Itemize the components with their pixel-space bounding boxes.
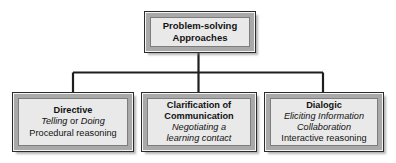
directive-conjunction-or: or xyxy=(67,116,80,126)
directive-term-telling: Telling xyxy=(41,116,67,126)
dialogic-node-line-4: Interactive reasoning xyxy=(265,133,383,144)
root-node-text: Problem-solving Approaches xyxy=(145,20,255,43)
directive-node: Directive Telling or Doing Procedural re… xyxy=(12,92,134,152)
clarification-node-line-1: Clarification of xyxy=(142,100,256,111)
directive-node-line-2: Telling or Doing xyxy=(13,116,133,127)
dialogic-node-line-1: Dialogic xyxy=(265,100,383,111)
root-node: Problem-solving Approaches xyxy=(144,11,256,53)
directive-node-line-3: Procedural reasoning xyxy=(13,128,133,139)
clarification-node: Clarification of Communication Negotiati… xyxy=(141,92,257,152)
directive-node-line-1: Directive xyxy=(13,105,133,116)
clarification-node-line-2: Communication xyxy=(142,111,256,122)
problem-solving-approaches-diagram: Problem-solving Approaches Directive Tel… xyxy=(0,0,396,163)
dialogic-node-text: Dialogic Eliciting Information Collabora… xyxy=(265,100,383,145)
clarification-node-line-3: Negotiating a xyxy=(142,122,256,133)
dialogic-node: Dialogic Eliciting Information Collabora… xyxy=(264,92,384,152)
root-node-line-1: Problem-solving xyxy=(145,20,255,32)
dialogic-node-line-2: Eliciting Information xyxy=(265,111,383,122)
dialogic-node-line-3: Collaboration xyxy=(265,122,383,133)
directive-term-doing: Doing xyxy=(81,116,105,126)
clarification-node-text: Clarification of Communication Negotiati… xyxy=(142,100,256,145)
clarification-node-line-4: learning contact xyxy=(142,133,256,144)
root-node-line-2: Approaches xyxy=(145,32,255,44)
directive-node-text: Directive Telling or Doing Procedural re… xyxy=(13,105,133,139)
